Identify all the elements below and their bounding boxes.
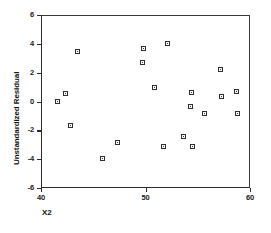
y-axis-tick-label: 6 — [8, 11, 34, 19]
y-axis-title: Unstandardized Residual — [10, 151, 135, 165]
x-axis-tick — [146, 188, 147, 192]
x-axis-tick — [41, 188, 42, 192]
y-axis-tick-label: -6 — [8, 184, 34, 192]
y-axis-tick-label: 4 — [8, 40, 34, 48]
y-axis-tick — [37, 73, 41, 74]
x-axis-tick-label: 40 — [29, 193, 53, 202]
x-axis-title: X2 — [42, 208, 52, 217]
x-axis-tick-label: 60 — [238, 193, 262, 202]
x-axis-tick-label: 50 — [134, 193, 158, 202]
x-axis-tick — [250, 188, 251, 192]
y-axis-tick — [37, 15, 41, 16]
scatter-plot-figure: 6420-2-4-6 405060 Unstandardized Residua… — [0, 0, 271, 233]
y-axis-tick — [37, 102, 41, 103]
y-axis-tick — [37, 44, 41, 45]
y-axis-tick — [37, 130, 41, 131]
